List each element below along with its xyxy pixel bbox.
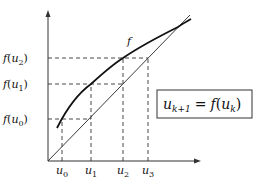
cobweb-diagram: f f(u2) f(u1) f(u0) u0 u1 u2 u3 uk+1=f(u… xyxy=(0,0,265,184)
diagonal-line xyxy=(48,15,190,161)
x-labels: u0 u1 u2 u3 xyxy=(56,164,154,179)
x-label-u2: u2 xyxy=(117,164,129,179)
curve-label: f xyxy=(126,35,133,48)
x-label-u3: u3 xyxy=(142,164,154,179)
y-axis-arrow-icon xyxy=(46,10,51,17)
x-axis-arrow-icon xyxy=(194,159,201,164)
x-label-u0: u0 xyxy=(56,164,68,179)
axes xyxy=(46,10,202,164)
y-label-f-u1: f(u1) xyxy=(2,78,28,93)
y-labels: f(u2) f(u1) f(u0) xyxy=(2,52,28,128)
x-label-u1: u1 xyxy=(85,164,97,179)
y-label-f-u2: f(u2) xyxy=(2,52,28,67)
formula-box: uk+1=f(uk) xyxy=(157,90,252,118)
y-label-f-u0: f(u0) xyxy=(2,113,28,128)
